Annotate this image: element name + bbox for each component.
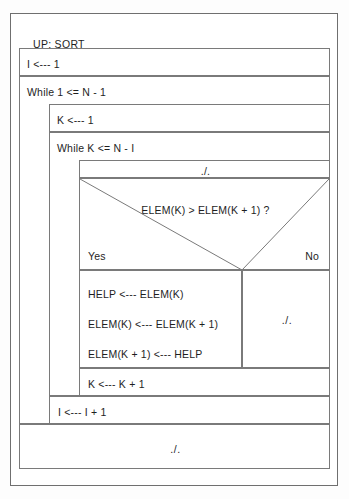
block-increment-i-label: I <--- I + 1 [58,407,107,418]
diagram-canvas: UP: SORT I <--- 1 While 1 <= N - 1 K <--… [0,0,349,499]
block-while-inner-label: While K <= N - I [57,143,134,154]
block-condition-label: ELEM(K) > ELEM(K + 1) ? [80,205,331,216]
no-statement-label: ./. [243,315,331,326]
branch-no-label: No [305,251,319,262]
block-inner-top-marker: ./. [79,160,330,178]
block-yes-branch: HELP <--- ELEM(K) ELEM(K) <--- ELEM(K + … [79,270,242,368]
block-init-i-label: I <--- 1 [27,59,60,70]
block-increment-k: K <--- K + 1 [79,368,330,396]
block-init-i: I <--- 1 [19,48,330,76]
block-while-outer-label: While 1 <= N - 1 [27,87,106,98]
block-decision: ELEM(K) > ELEM(K + 1) ? Yes No [79,178,330,270]
yes-statement-1: ELEM(K) <--- ELEM(K + 1) [88,319,218,330]
block-increment-k-label: K <--- K + 1 [88,379,145,390]
branch-yes-label: Yes [88,251,106,262]
block-end-marker: ./. [19,424,330,469]
block-init-k-label: K <--- 1 [57,115,94,126]
block-inner-top-marker-label: ./. [80,166,331,177]
block-init-k: K <--- 1 [49,104,330,132]
yes-statement-0: HELP <--- ELEM(K) [88,289,184,300]
structogram-outer-frame: UP: SORT I <--- 1 While 1 <= N - 1 K <--… [10,13,338,486]
block-increment-i: I <--- I + 1 [49,396,330,424]
block-end-marker-label: ./. [20,444,331,455]
yes-statement-2: ELEM(K + 1) <--- HELP [88,349,202,360]
block-no-branch: ./. [242,270,330,368]
